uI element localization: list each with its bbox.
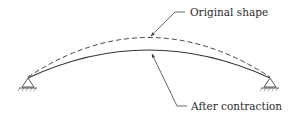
after-contraction-leader-arrow	[152, 54, 187, 106]
original-shape-label: Original shape	[190, 7, 268, 18]
original-shape-curve	[28, 38, 270, 78]
after-contraction-label: After contraction	[191, 101, 282, 112]
original-shape-leader-arrow	[151, 12, 185, 36]
right-pin-support-icon	[260, 78, 279, 91]
left-pin-support-icon	[18, 78, 37, 91]
after-contraction-curve	[28, 50, 270, 78]
